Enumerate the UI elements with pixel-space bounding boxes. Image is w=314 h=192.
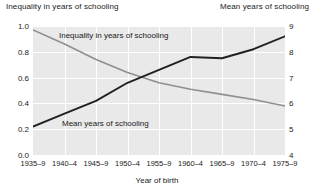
y-right-tick: 5 (289, 126, 301, 134)
mean-line (33, 36, 285, 126)
x-axis-title: Year of birth (0, 176, 314, 185)
inequality-series-label: Inequality in years of schooling (59, 31, 168, 40)
left-axis-title: Inequality in years of schooling (6, 2, 119, 12)
x-tick: 1975–9 (263, 160, 307, 168)
right-axis-title: Mean years of schooling (220, 2, 309, 12)
plot-area (33, 26, 285, 155)
y-left-tick: 0.8 (4, 49, 29, 57)
y-right-tick: 9 (289, 23, 301, 31)
series-lines (33, 26, 285, 155)
y-right-tick: 6 (289, 100, 301, 108)
y-left-tick: 0.4 (4, 100, 29, 108)
mean-series-label: Mean years of schooling (62, 119, 149, 128)
chart-figure: Inequality in years of schooling Mean ye… (0, 0, 314, 192)
y-right-tick: 8 (289, 49, 301, 57)
y-left-tick: 1.0 (4, 23, 29, 31)
inequality-line (33, 30, 285, 106)
y-right-tick: 7 (289, 75, 301, 83)
y-left-tick: 0.2 (4, 126, 29, 134)
y-left-tick: 0.6 (4, 75, 29, 83)
